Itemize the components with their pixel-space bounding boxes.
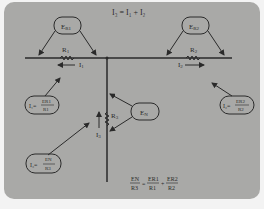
i2-formula-lhs: I₂= — [223, 103, 231, 109]
circuit-diagram: I₃ = I₁ + I₂ R1 R2 R3 I1 I2 I3 ER1 ER2 E… — [0, 0, 264, 209]
r1-label: R1 — [62, 46, 70, 54]
er1-arrow-right-icon — [80, 31, 96, 55]
i2-label: I2 — [178, 61, 183, 69]
er2-arrow-left-icon — [167, 31, 183, 55]
i2-formula-arrow-icon — [212, 83, 232, 96]
i1-formula-lhs: I₁= — [29, 103, 37, 109]
en-arrow-up-icon — [110, 94, 132, 106]
er1-arrow-left-icon — [39, 31, 55, 55]
svg-text:R2: R2 — [168, 185, 175, 191]
en-label: EN — [140, 109, 148, 117]
i3-formula-lhs: I₃= — [30, 162, 38, 168]
i3-formula-num: EN — [45, 157, 52, 162]
svg-text:+: + — [161, 181, 165, 187]
title-equation: I₃ = I₁ + I₂ — [112, 8, 146, 17]
er2-arrow-right-icon — [208, 31, 224, 55]
i3-formula-arrow-icon — [48, 123, 89, 155]
er1-label: ER1 — [61, 23, 72, 31]
svg-text:ER2: ER2 — [167, 176, 178, 182]
svg-text:R1: R1 — [149, 185, 156, 191]
i1-formula-arrow-icon — [45, 78, 60, 96]
svg-text:EN: EN — [131, 176, 140, 182]
i1-formula-num: ER1 — [42, 99, 51, 104]
svg-text:=: = — [142, 181, 146, 187]
i2-formula-num: ER2 — [236, 99, 245, 104]
r2-label: R2 — [190, 46, 198, 54]
i3-label: I3 — [96, 131, 101, 139]
r3-label: R3 — [111, 112, 119, 120]
i3-formula-den: R3 — [45, 166, 51, 171]
bottom-equation: EN R3 = ER1 R1 + ER2 R2 — [130, 176, 178, 191]
er2-label: ER2 — [189, 23, 200, 31]
i1-formula-den: R1 — [43, 107, 49, 112]
svg-text:ER1: ER1 — [148, 176, 159, 182]
i1-label: I1 — [79, 61, 84, 69]
i2-formula-den: R2 — [238, 107, 244, 112]
svg-text:R3: R3 — [131, 185, 138, 191]
